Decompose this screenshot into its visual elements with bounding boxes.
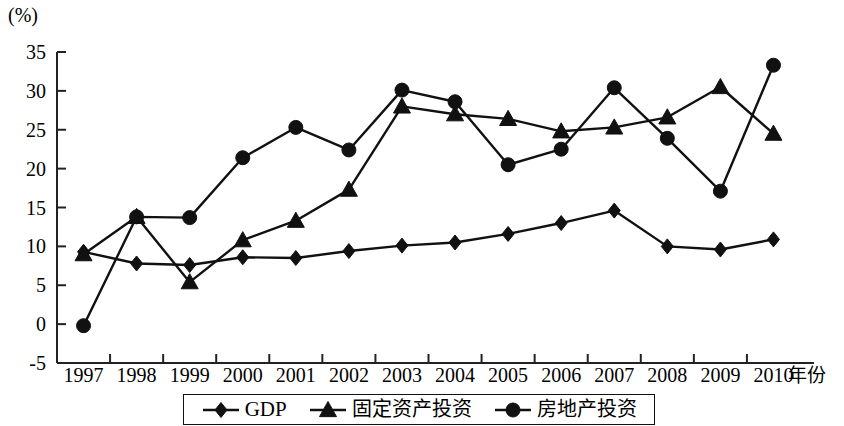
data-point-diamond xyxy=(215,402,227,417)
chart-legend: GDP固定资产投资房地产投资 xyxy=(183,394,655,425)
plot-area xyxy=(0,0,844,426)
legend-label: 房地产投资 xyxy=(537,399,637,420)
data-point-diamond xyxy=(131,256,143,271)
data-point-circle xyxy=(501,158,515,172)
data-point-diamond xyxy=(290,251,302,266)
data-point-circle xyxy=(607,81,621,95)
data-point-diamond xyxy=(608,203,620,218)
data-point-diamond xyxy=(396,238,408,253)
data-point-diamond xyxy=(343,244,355,259)
data-point-diamond xyxy=(502,226,514,241)
legend-marker-circle-icon xyxy=(493,401,533,419)
data-point-circle xyxy=(342,143,356,157)
data-point-diamond xyxy=(449,235,461,250)
legend-label: GDP xyxy=(245,399,287,420)
series-固定资产投资 xyxy=(75,78,782,288)
data-point-diamond xyxy=(767,232,779,247)
data-point-circle xyxy=(183,211,197,225)
data-point-diamond xyxy=(237,250,249,265)
data-point-circle xyxy=(554,142,568,156)
data-point-circle xyxy=(236,151,250,165)
data-point-circle xyxy=(660,131,674,145)
data-point-circle xyxy=(713,184,727,198)
data-point-circle xyxy=(506,403,520,417)
data-point-circle xyxy=(77,319,91,333)
data-point-diamond xyxy=(714,242,726,257)
data-point-triangle xyxy=(393,98,410,113)
data-point-triangle xyxy=(340,181,357,196)
legend-item-circle[interactable]: 房地产投资 xyxy=(493,399,637,420)
data-point-circle xyxy=(289,120,303,134)
data-point-triangle xyxy=(712,78,729,93)
legend-item-diamond[interactable]: GDP xyxy=(201,399,287,420)
line-chart: (%) 35302520151050-5 1997199819992000200… xyxy=(0,0,844,426)
data-point-circle xyxy=(448,95,462,109)
legend-marker-diamond-icon xyxy=(201,401,241,419)
series-房地产投资 xyxy=(77,58,781,332)
data-point-circle xyxy=(766,58,780,72)
data-point-triangle xyxy=(659,109,676,124)
series-GDP xyxy=(78,203,780,272)
data-point-diamond xyxy=(184,258,196,273)
legend-item-triangle[interactable]: 固定资产投资 xyxy=(308,399,472,420)
data-point-circle xyxy=(395,83,409,97)
legend-marker-triangle-icon xyxy=(308,401,348,419)
legend-label: 固定资产投资 xyxy=(352,399,472,420)
data-point-triangle xyxy=(287,212,304,227)
data-point-diamond xyxy=(661,239,673,254)
data-point-diamond xyxy=(555,216,567,231)
data-point-circle xyxy=(130,210,144,224)
